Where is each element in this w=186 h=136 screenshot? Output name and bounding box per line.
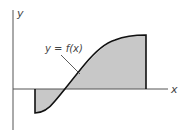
area-under-curve-diagram: y x y = f(x): [0, 0, 186, 136]
label-leader-line: [61, 55, 80, 74]
x-axis-label: x: [170, 83, 178, 96]
curve-label: y = f(x): [44, 43, 83, 54]
y-axis-label: y: [16, 7, 24, 20]
